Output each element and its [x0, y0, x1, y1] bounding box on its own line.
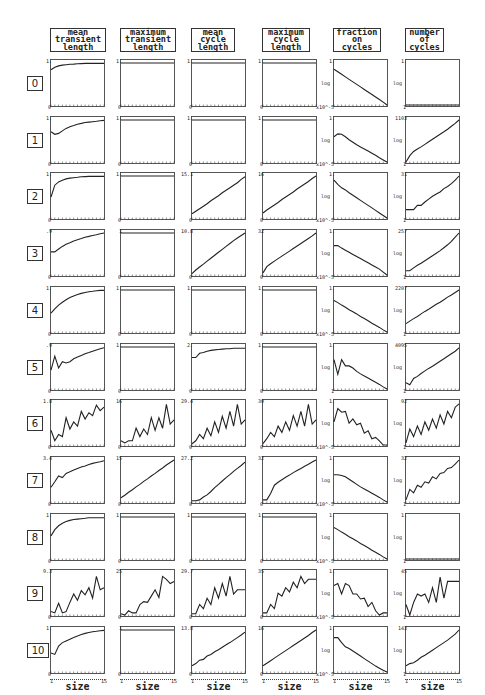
- row-label: 6: [27, 416, 43, 431]
- y-axis-min-label: 0: [260, 274, 263, 280]
- y-axis-max-label: 1.: [329, 398, 335, 404]
- y-axis-max-label: 1.: [258, 512, 264, 518]
- y-axis-max-label: 1.: [329, 568, 335, 574]
- y-axis-log-label: log: [321, 250, 330, 256]
- y-axis-max-label: .9: [46, 342, 52, 348]
- chart-panel: 1.0: [262, 116, 317, 164]
- y-axis-max-label: 1.: [258, 342, 264, 348]
- y-axis-max-label: 32: [401, 455, 407, 461]
- row-label: 9: [27, 586, 43, 601]
- y-axis-min-label: 1: [331, 388, 334, 394]
- y-axis-max-label: 1.: [329, 58, 335, 64]
- y-axis-min-label: 0: [48, 331, 51, 337]
- chart-panel: 9.30: [50, 569, 105, 617]
- y-axis-min-label: 1: [403, 671, 406, 677]
- y-axis-max-label: 1103: [395, 115, 407, 121]
- y-axis-max-label: 1.: [329, 455, 335, 461]
- chart-panel: 11031log: [405, 116, 460, 164]
- y-axis-min-label: 0: [118, 558, 121, 564]
- y-axis-log-label: log: [321, 137, 330, 143]
- y-axis-max-label: 1.: [116, 512, 122, 518]
- x-axis-label: size: [120, 681, 175, 692]
- chart-panel: 1.0: [120, 172, 175, 220]
- row-label: 8: [27, 530, 43, 545]
- y-axis-log-label: log: [393, 364, 402, 370]
- y-axis-min-label: 0: [260, 104, 263, 110]
- y-axis-max-label: 16: [258, 171, 264, 177]
- chart-panel: 1.0: [120, 116, 175, 164]
- y-axis-min-label: x10^-5: [316, 444, 334, 450]
- y-axis-max-label: 1.: [116, 58, 122, 64]
- y-axis-min-label: 1: [403, 331, 406, 337]
- chart-panel: 2571log: [405, 229, 460, 277]
- y-axis-max-label: 1.: [329, 115, 335, 121]
- y-axis-max-label: 1.: [258, 58, 264, 64]
- y-axis-max-label: 30: [258, 398, 264, 404]
- chart-panel: 1.0: [120, 343, 175, 391]
- y-axis-max-label: 32: [258, 228, 264, 234]
- y-axis-max-label: 16: [258, 625, 264, 631]
- y-axis-max-label: 257: [398, 228, 407, 234]
- y-axis-max-label: 1.: [187, 512, 193, 518]
- chart-panel: 1.0: [50, 513, 105, 561]
- column-header-line: length: [194, 44, 232, 52]
- y-axis-log-label: log: [321, 534, 330, 540]
- y-axis-min-label: x10^-5: [316, 671, 334, 677]
- x-axis-label: size: [262, 681, 317, 692]
- y-axis-max-label: 25: [116, 568, 122, 574]
- y-axis-min-label: 0: [48, 104, 51, 110]
- y-axis-max-label: 15.1: [181, 171, 193, 177]
- y-axis-min-label: 0: [260, 217, 263, 223]
- chart-panel: .90: [50, 229, 105, 277]
- y-axis-min-label: 0: [48, 444, 51, 450]
- y-axis-max-label: 2207: [395, 285, 407, 291]
- x-axis-line: [191, 679, 246, 680]
- y-axis-max-label: 92: [401, 398, 407, 404]
- y-axis-min-label: 0: [189, 388, 192, 394]
- column-header: maximumtransientlength: [120, 28, 176, 52]
- column-header: meantransientlength: [50, 28, 106, 52]
- row-label: 10: [27, 643, 49, 658]
- chart-panel: 1.1log: [405, 59, 460, 107]
- y-axis-log-label: log: [393, 534, 402, 540]
- chart-panel: 250: [120, 569, 175, 617]
- chart-panel: 1.x10^-5log: [333, 229, 388, 277]
- chart-panel: 1.80: [50, 399, 105, 447]
- chart-panel: 1.0: [191, 116, 246, 164]
- chart-panel: 150: [120, 456, 175, 504]
- chart-panel: 1.x10^-5log: [333, 513, 388, 561]
- y-axis-max-label: 1.: [258, 285, 264, 291]
- x-axis-line: [405, 679, 460, 680]
- y-axis-max-label: 15: [116, 455, 122, 461]
- y-axis-min-label: 0: [118, 217, 121, 223]
- y-axis-max-label: 1.: [401, 512, 407, 518]
- row-label: 5: [27, 360, 43, 375]
- y-axis-min-label: x10^-5: [316, 331, 334, 337]
- chart-panel: 300: [262, 399, 317, 447]
- y-axis-max-label: 143: [398, 625, 407, 631]
- y-axis-min-label: 1: [403, 274, 406, 280]
- y-axis-log-label: log: [321, 80, 330, 86]
- y-axis-log-label: log: [321, 477, 330, 483]
- y-axis-min-label: 0: [260, 331, 263, 337]
- chart-panel: 1.x10^-5log: [333, 569, 388, 617]
- chart-panel: 1.0: [191, 513, 246, 561]
- y-axis-min-label: 1: [403, 161, 406, 167]
- y-axis-max-label: 13.8: [181, 625, 193, 631]
- y-axis-max-label: 45: [401, 568, 407, 574]
- y-axis-log-label: log: [393, 307, 402, 313]
- y-axis-log-label: log: [393, 80, 402, 86]
- y-axis-min-label: 0: [48, 671, 51, 677]
- chart-panel: 320: [262, 456, 317, 504]
- chart-panel: 1.0: [262, 513, 317, 561]
- y-axis-min-label: 0: [48, 274, 51, 280]
- y-axis-max-label: 31: [401, 171, 407, 177]
- row-label: 0: [27, 76, 43, 91]
- y-axis-min-label: 1: [403, 388, 406, 394]
- y-axis-log-label: log: [321, 590, 330, 596]
- y-axis-min-label: x10^-5: [316, 614, 334, 620]
- y-axis-max-label: 1.: [187, 58, 193, 64]
- y-axis-min-label: 1: [403, 104, 406, 110]
- y-axis-min-label: 0: [189, 217, 192, 223]
- y-axis-min-label: 0: [189, 558, 192, 564]
